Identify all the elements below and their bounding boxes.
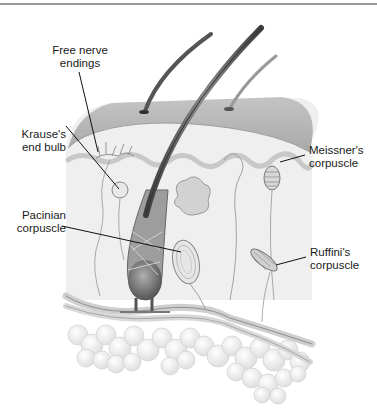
skin-receptor-diagram: Free nerve endings Krause's end bulb Pac… bbox=[0, 0, 377, 415]
subcutaneous-fat bbox=[68, 325, 310, 404]
label-pacinian-corpuscle: Pacinian corpuscle bbox=[4, 209, 66, 235]
label-ruffini-corpuscle: Ruffini's corpuscle bbox=[310, 246, 359, 272]
label-meissner-corpuscle: Meissner's corpuscle bbox=[309, 144, 364, 170]
label-free-nerve-endings: Free nerve endings bbox=[44, 44, 116, 70]
label-krause-end-bulb: Krause's end bulb bbox=[4, 128, 66, 154]
